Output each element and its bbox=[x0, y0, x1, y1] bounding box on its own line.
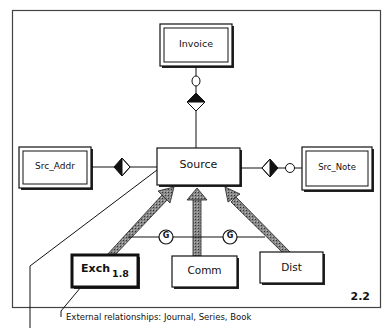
entity-dist-label: Dist bbox=[260, 261, 323, 273]
g-marker-label: G bbox=[224, 231, 236, 240]
half-diamond-icon bbox=[187, 93, 205, 111]
entity-exch-name: Exch bbox=[81, 262, 110, 275]
entity-comm-label: Comm bbox=[172, 264, 237, 276]
half-diamond-icon bbox=[262, 159, 278, 177]
entity-invoice-label: Invoice bbox=[164, 38, 228, 49]
entity-source-label: Source bbox=[157, 158, 240, 171]
generalization-arrow-dist bbox=[225, 187, 291, 253]
half-diamond-icon bbox=[114, 158, 130, 176]
optional-circle-icon bbox=[192, 76, 200, 86]
entity-src-addr-label: Src_Addr bbox=[23, 161, 87, 171]
generalization-arrow-exch bbox=[106, 187, 174, 256]
generalization-arrow-comm bbox=[187, 188, 207, 256]
optional-circle-icon bbox=[286, 164, 295, 173]
entity-exch-label: Exch1.8 bbox=[72, 262, 138, 275]
g-marker-label: G bbox=[160, 231, 172, 240]
figure-number: 2.2 bbox=[340, 290, 370, 303]
entity-exch-subscript: 1.8 bbox=[112, 268, 129, 279]
caption-text: External relationships: Journal, Series,… bbox=[66, 312, 251, 322]
leader-line bbox=[30, 170, 157, 328]
entity-src-note-label: Src_Note bbox=[306, 162, 368, 172]
